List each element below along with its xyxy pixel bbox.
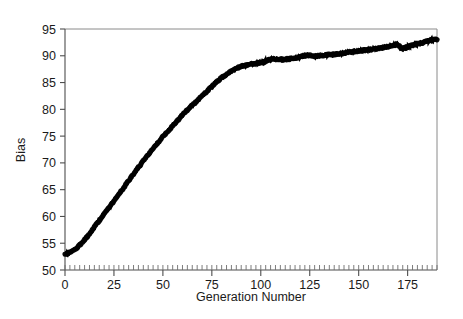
y-tick-label-85: 85 <box>42 76 56 90</box>
y-tick-label-75: 75 <box>42 130 56 144</box>
bias-vs-generation-line-chart: 50556065707580859095 0255075100125150175… <box>0 0 463 319</box>
x-tick-label-150: 150 <box>348 278 369 292</box>
x-tick-label-50: 50 <box>156 278 170 292</box>
y-tick-label-90: 90 <box>42 49 56 63</box>
y-tick-label-70: 70 <box>42 156 56 170</box>
x-tick-label-175: 175 <box>397 278 418 292</box>
y-tick-label-55: 55 <box>42 237 56 251</box>
y-tick-label-65: 65 <box>42 183 56 197</box>
y-tick-label-95: 95 <box>42 23 56 37</box>
chart-figure: 50556065707580859095 0255075100125150175… <box>0 0 463 319</box>
y-tick-label-50: 50 <box>42 264 56 278</box>
y-tick-label-60: 60 <box>42 210 56 224</box>
y-axis-title: Bias <box>14 138 28 162</box>
x-axis-title: Generation Number <box>196 290 306 304</box>
x-tick-label-25: 25 <box>107 278 121 292</box>
x-tick-label-0: 0 <box>62 278 69 292</box>
y-tick-label-80: 80 <box>42 103 56 117</box>
